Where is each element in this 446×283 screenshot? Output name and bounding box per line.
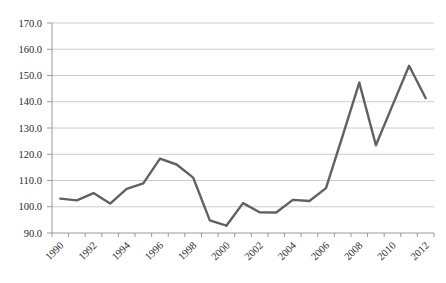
chart-container: 90.0100.0110.0120.0130.0140.0150.0160.01… — [0, 0, 446, 283]
y-tick-label-170.0: 170.0 — [18, 18, 42, 29]
y-tick-label-130.0: 130.0 — [18, 123, 42, 134]
line-chart: 90.0100.0110.0120.0130.0140.0150.0160.01… — [0, 0, 446, 283]
y-tick-label-90.0: 90.0 — [24, 228, 42, 239]
y-tick-label-160.0: 160.0 — [18, 44, 42, 55]
y-tick-label-120.0: 120.0 — [18, 149, 42, 160]
y-tick-label-150.0: 150.0 — [18, 70, 42, 81]
y-tick-label-110.0: 110.0 — [19, 175, 42, 186]
screenshot-root: 90.0100.0110.0120.0130.0140.0150.0160.01… — [0, 0, 446, 283]
y-tick-label-140.0: 140.0 — [18, 96, 42, 107]
y-tick-label-100.0: 100.0 — [18, 201, 42, 212]
